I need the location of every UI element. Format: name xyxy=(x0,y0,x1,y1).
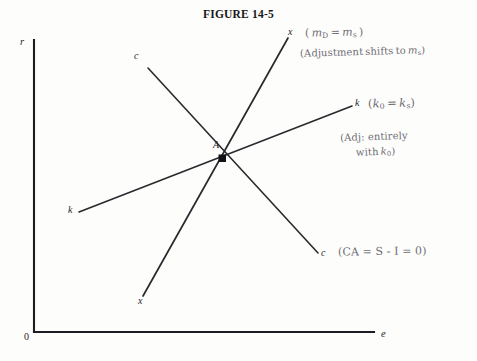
k-curve-line xyxy=(79,106,352,212)
equilibrium-point-marker xyxy=(219,155,227,163)
c-curve-line xyxy=(148,68,318,253)
k-curve-label-left: k xyxy=(68,204,72,215)
annot-sub-s3: s xyxy=(406,101,410,110)
equilibrium-point-label: A xyxy=(213,139,219,150)
annot-sub-02: 0 xyxy=(387,150,392,158)
c-curve-label-bottom: c xyxy=(321,247,325,258)
y-axis-label: r xyxy=(20,36,24,47)
c-curve-label-top: c xyxy=(134,50,138,61)
annotation-adjustment-entirely-line1: (Adj: entirely xyxy=(340,130,408,143)
annotation-capital-equilibrium: (k0 = ks) xyxy=(368,95,415,111)
annotation-adjustment-entirely-line2: with k0) xyxy=(356,145,396,159)
x-curve-label-top: x xyxy=(288,26,292,37)
x-curve-label-bottom: x xyxy=(138,295,142,306)
k-curve-label-right: k xyxy=(355,97,359,108)
x-axis-label: e xyxy=(381,328,386,339)
annotation-money-market-equilibrium: ( mD = ms ) xyxy=(305,25,364,40)
annotation-current-account-balance: (CA = S - I = 0) xyxy=(338,244,427,258)
annot-sub-0: 0 xyxy=(380,102,385,111)
annot-sub-D: D xyxy=(322,31,328,40)
x-curve-line xyxy=(143,38,288,296)
annot-sub-s2: s xyxy=(417,49,421,57)
origin-label: 0 xyxy=(24,331,29,342)
figure-page: FIGURE 14-5 r e 0 c c x x k k A ( mD = m… xyxy=(0,0,477,361)
annot-sub-s: s xyxy=(353,30,357,39)
